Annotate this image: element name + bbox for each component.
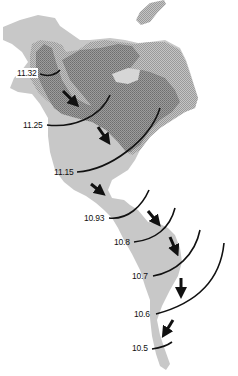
arrow-icon	[148, 211, 157, 222]
contour-label: 10.93	[83, 213, 105, 223]
arrow-icon	[165, 320, 173, 333]
contour-label: 10.7	[131, 271, 149, 281]
contour-label: 10.8	[113, 237, 131, 247]
contour-label: 10.5	[131, 343, 149, 353]
contour-label: 11.32	[16, 68, 38, 78]
americas-map	[0, 0, 238, 376]
contour-label: 10.6	[133, 309, 151, 319]
contour-label: 11.15	[53, 167, 75, 177]
greenland-landmass	[136, 0, 166, 25]
contour-label: 11.25	[22, 120, 44, 130]
